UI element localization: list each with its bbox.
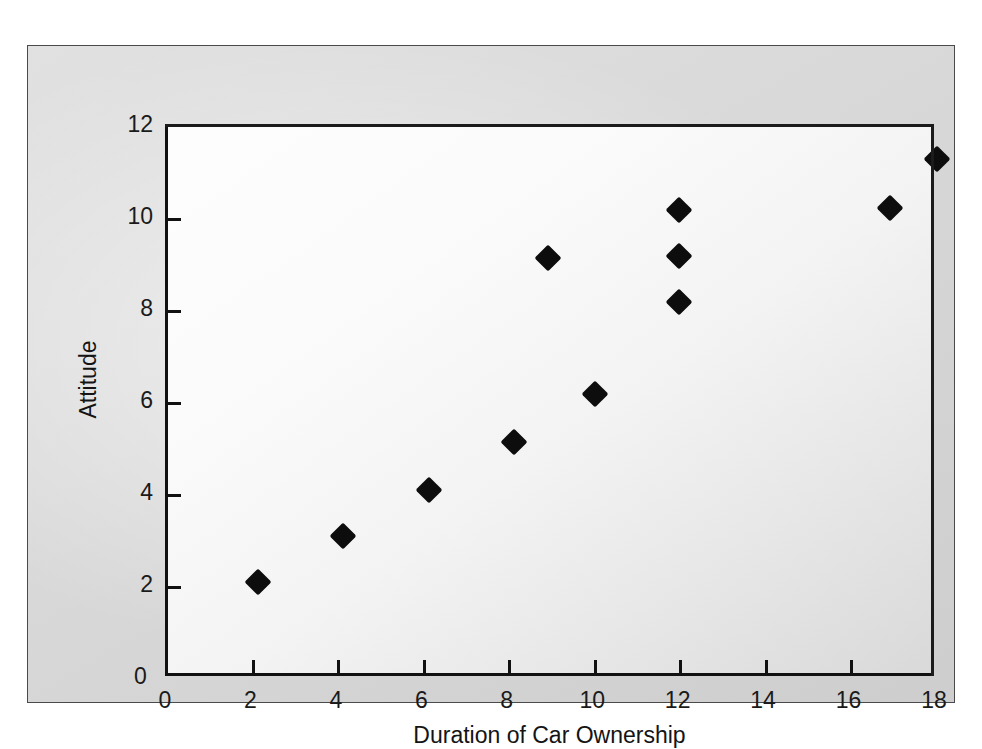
x-tick-label-4: 4 [329,687,342,714]
x-tick-label-18: 18 [921,687,947,714]
data-point [877,194,904,221]
y-axis-title: Attitude [75,300,102,460]
y-tick-label-6: 6 [140,387,153,414]
y-tick-8 [168,310,181,313]
x-tick-label-6: 6 [415,687,428,714]
x-tick-label-8: 8 [500,687,513,714]
y-tick-label-8: 8 [140,295,153,322]
data-point [924,146,951,173]
x-tick-2 [252,660,255,673]
y-axis-origin-label: 0 [134,663,147,690]
x-axis-title: Duration of Car Ownership [165,722,934,749]
data-point [535,245,562,272]
x-tick-14 [765,660,768,673]
data-point [665,242,692,269]
plot-area [165,124,934,676]
x-tick-label-16: 16 [836,687,862,714]
figure-frame: 24681012 024681012141618 0 Duration of C… [27,45,955,703]
x-tick-label-0: 0 [159,687,172,714]
x-tick-6 [423,660,426,673]
y-axis-tick-labels: 24681012 [113,124,153,676]
data-point [501,429,528,456]
x-tick-label-12: 12 [665,687,691,714]
y-tick-4 [168,494,181,497]
y-tick-2 [168,586,181,589]
y-tick-label-12: 12 [127,111,153,138]
x-tick-10 [594,660,597,673]
data-point [665,288,692,315]
data-point [244,569,271,596]
x-tick-12 [679,660,682,673]
x-tick-label-14: 14 [750,687,776,714]
y-tick-label-4: 4 [140,479,153,506]
y-tick-label-2: 2 [140,571,153,598]
y-tick-6 [168,402,181,405]
data-point [330,523,357,550]
x-tick-4 [337,660,340,673]
x-tick-label-2: 2 [244,687,257,714]
x-tick-label-10: 10 [579,687,605,714]
data-point [415,477,442,504]
x-axis-tick-labels: 024681012141618 [165,687,934,719]
x-tick-16 [850,660,853,673]
data-point [665,196,692,223]
data-point [582,380,609,407]
x-tick-8 [508,660,511,673]
y-tick-10 [168,218,181,221]
y-tick-label-10: 10 [127,203,153,230]
